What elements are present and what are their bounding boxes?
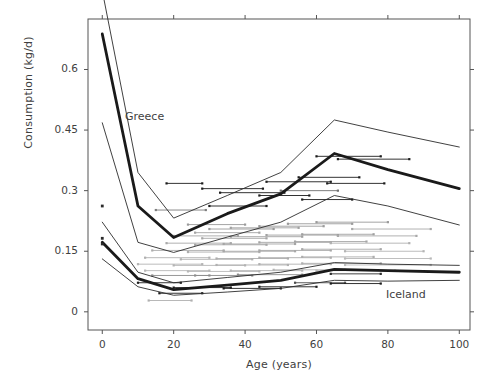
axes-frame [88, 19, 470, 330]
x-tick-label: 40 [225, 338, 265, 350]
series-label-greece: Greece [125, 110, 164, 123]
y-tick-label: 0 [44, 305, 78, 317]
y-tick-label: 0.6 [44, 62, 78, 74]
y-tick-label: 0.15 [44, 244, 78, 256]
x-tick-label: 100 [439, 338, 479, 350]
x-tick-label: 80 [368, 338, 408, 350]
x-axis-title: Age (years) [88, 358, 470, 371]
x-tick-label: 20 [154, 338, 194, 350]
chart-figure: Consumption (kg/d) Age (years) 00.150.30… [0, 0, 501, 390]
axis-ticks [84, 15, 474, 334]
y-axis-title: Consumption (kg/d) [22, 3, 35, 183]
x-tick-label: 0 [82, 338, 122, 350]
y-tick-label: 0.45 [44, 123, 78, 135]
x-tick-label: 60 [296, 338, 336, 350]
y-tick-label: 0.3 [44, 184, 78, 196]
series-label-iceland: Iceland [386, 288, 426, 301]
scatter-points-group [101, 205, 104, 246]
